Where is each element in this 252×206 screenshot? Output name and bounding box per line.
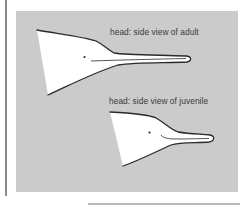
adult-eye (83, 56, 85, 58)
juvenile-head-label: head: side view of juvenile (109, 96, 208, 106)
adult-head-drawing (37, 30, 191, 95)
juvenile-head-drawing (110, 112, 214, 166)
juvenile-eye (148, 131, 150, 133)
adult-head-label: head: side view of adult (110, 27, 199, 37)
